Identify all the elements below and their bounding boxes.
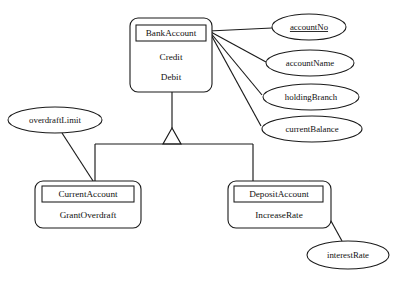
currentaccount-title: CurrentAccount xyxy=(58,189,118,199)
attribute-ellipse-overdraftlimit[interactable]: overdraftLimit xyxy=(8,107,102,133)
currentbalance-label: currentBalance xyxy=(285,124,338,134)
attribute-ellipse-holdingbranch[interactable]: holdingBranch xyxy=(263,84,359,110)
class-box-bankaccount[interactable]: BankAccount Credit Debit xyxy=(130,18,212,92)
generalization-triangle-icon xyxy=(163,128,181,144)
bank-account-attribute-connectors xyxy=(209,28,272,126)
holdingbranch-label: holdingBranch xyxy=(285,92,338,102)
class-box-depositaccount[interactable]: DepositAccount IncreaseRate xyxy=(228,181,331,228)
connector-accountno xyxy=(209,28,272,31)
overdraftlimit-label: overdraftLimit xyxy=(29,115,81,125)
currentaccount-attribute-grantoverdraft: GrantOverdraft xyxy=(60,210,117,220)
attribute-ellipse-accountno[interactable]: accountNo xyxy=(272,14,346,40)
attribute-ellipse-accountname[interactable]: accountName xyxy=(266,50,354,76)
accountno-label: accountNo xyxy=(290,22,329,32)
attribute-ellipse-interestrate[interactable]: interestRate xyxy=(307,241,389,269)
bankaccount-attribute-credit: Credit xyxy=(160,52,183,62)
accountname-label: accountName xyxy=(286,58,334,68)
connector-holdingbranch xyxy=(209,31,262,95)
bankaccount-title: BankAccount xyxy=(146,28,197,38)
bankaccount-attribute-debit: Debit xyxy=(161,72,182,82)
generalization-connector xyxy=(95,92,253,181)
uml-class-diagram: BankAccount Credit Debit CurrentAccount … xyxy=(0,0,395,286)
interestrate-label: interestRate xyxy=(327,250,369,260)
depositaccount-title: DepositAccount xyxy=(249,189,309,199)
depositaccount-attribute-increaserate: IncreaseRate xyxy=(255,210,302,220)
class-box-currentaccount[interactable]: CurrentAccount GrantOverdraft xyxy=(35,181,141,228)
connector-overdraftlimit xyxy=(62,133,95,184)
attribute-ellipse-currentbalance[interactable]: currentBalance xyxy=(262,116,362,142)
